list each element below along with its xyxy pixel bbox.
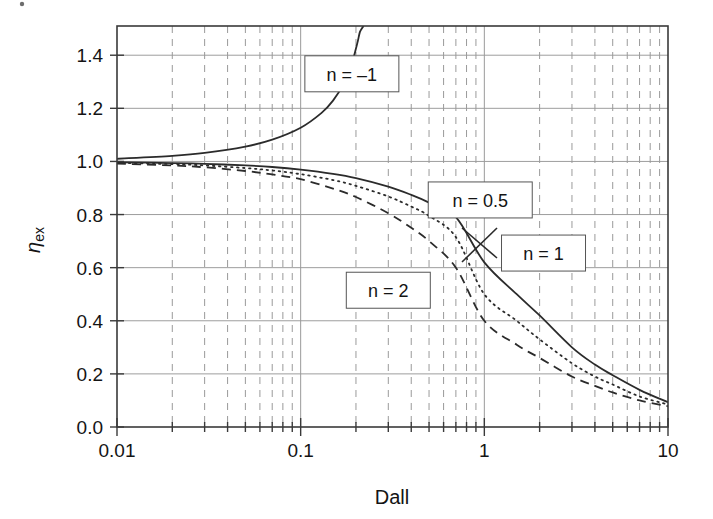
annotation-label: n = 0.5 — [452, 191, 508, 211]
y-tick-label: 0.4 — [77, 311, 104, 332]
annotation-label: n = 2 — [368, 281, 409, 301]
annotation-label: n = –1 — [327, 65, 378, 85]
y-tick-label: 0.8 — [77, 205, 103, 226]
y-tick-label: 1.2 — [77, 98, 103, 119]
y-tick-label: 1.4 — [77, 45, 104, 66]
y-tick-label: 0.2 — [77, 364, 103, 385]
annotation-n-0-5: n = 0.5 — [428, 182, 532, 218]
annotation-label: n = 1 — [523, 244, 564, 264]
x-tick-label: 1 — [479, 440, 490, 461]
annotation-n-1: n = 1 — [502, 235, 586, 271]
chart-figure: 0.010.1110 0.00.20.40.60.81.01.21.4 n = … — [0, 0, 713, 519]
y-tick-label: 1.0 — [77, 151, 103, 172]
y-tick-label: 0.0 — [77, 417, 103, 438]
x-tick-label: 0.01 — [99, 440, 136, 461]
x-tick-label: 10 — [657, 440, 678, 461]
x-tick-label: 0.1 — [287, 440, 313, 461]
x-axis-title: Dall — [375, 486, 409, 508]
chart-svg: 0.010.1110 0.00.20.40.60.81.01.21.4 n = … — [0, 0, 713, 519]
y-tick-label: 0.6 — [77, 258, 103, 279]
annotation-n-2: n = 2 — [346, 272, 430, 308]
scan-artifact-speck — [20, 2, 24, 6]
y-axis-title-subscript: ex — [31, 227, 47, 242]
annotation-n-1: n = –1 — [305, 56, 399, 92]
y-axis-title-base: η — [22, 242, 44, 253]
